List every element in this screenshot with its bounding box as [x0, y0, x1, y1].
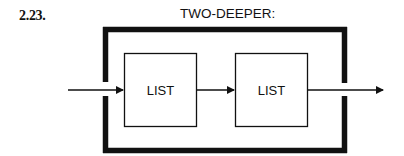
- two-deeper-diagram: LIST LIST: [0, 0, 404, 156]
- list-box-2: LIST: [236, 54, 308, 127]
- list-box-2-label: LIST: [258, 83, 286, 98]
- list-box-1-label: LIST: [147, 83, 175, 98]
- list-box-1: LIST: [125, 54, 197, 127]
